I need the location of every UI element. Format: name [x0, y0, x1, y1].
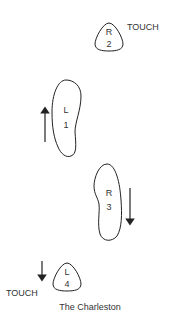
- footprint-l4: L 4: [53, 263, 81, 291]
- dance-step-diagram: R 2 TOUCH L 1 R 3 L 4 TOUCH: [0, 0, 180, 330]
- foot-label: L: [63, 105, 68, 115]
- step-number: 4: [64, 279, 69, 289]
- footprint-l1: L 1: [52, 80, 81, 157]
- step-number: 3: [106, 202, 111, 212]
- foot-label: R: [106, 188, 113, 198]
- step-number: 2: [106, 39, 111, 49]
- step-number: 1: [63, 120, 68, 130]
- touch-label: TOUCH: [6, 288, 38, 298]
- diagram-caption: The Charleston: [0, 302, 180, 312]
- footprint-r2: R 2: [95, 23, 123, 51]
- foot-label: R: [106, 27, 113, 37]
- touch-label: TOUCH: [127, 22, 159, 32]
- foot-label: L: [64, 267, 69, 277]
- footprint-r3: R 3: [94, 164, 122, 240]
